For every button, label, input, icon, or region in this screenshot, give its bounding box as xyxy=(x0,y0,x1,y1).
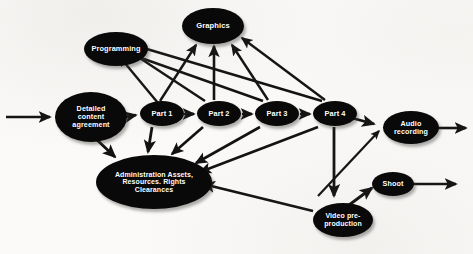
node-label: Audiorecording xyxy=(390,120,432,136)
node-label: Part 4 xyxy=(320,110,349,118)
node-label: Video pre-production xyxy=(320,212,366,227)
node-detailed-content-agreement[interactable]: Detailedcontentagreement xyxy=(55,92,127,142)
node-part-1[interactable]: Part 1 xyxy=(140,101,184,126)
node-label: Part 2 xyxy=(204,110,233,118)
node-administration-assets[interactable]: Administration Assets,Resources. RightsC… xyxy=(96,155,212,209)
node-audio-recording[interactable]: Audiorecording xyxy=(383,111,439,144)
node-label: Programming xyxy=(87,45,144,53)
edge-video-to-shoot xyxy=(349,188,372,205)
edge-part2-to-admin xyxy=(172,127,203,154)
edge-part1-to-admin xyxy=(148,127,152,152)
workflow-diagram: Detailedcontentagreement Programming Gra… xyxy=(0,0,473,254)
node-label: Detailedcontentagreement xyxy=(68,105,113,128)
edge-detailed-to-part1 xyxy=(126,115,136,117)
node-label: Part 3 xyxy=(262,110,291,118)
node-shoot[interactable]: Shoot xyxy=(372,172,414,196)
node-part-3[interactable]: Part 3 xyxy=(255,101,299,126)
edge-part4-to-programming xyxy=(130,44,322,101)
node-graphics[interactable]: Graphics xyxy=(182,8,244,44)
node-label: Part 1 xyxy=(147,110,176,118)
node-label: Graphics xyxy=(192,22,234,30)
node-video-pre-production[interactable]: Video pre-production xyxy=(313,203,373,237)
edge-video-to-admin xyxy=(203,184,313,211)
node-label: Shoot xyxy=(379,180,408,188)
node-programming[interactable]: Programming xyxy=(84,32,148,66)
edge-video-to-audio xyxy=(318,131,379,196)
node-label: Administration Assets,Resources. RightsC… xyxy=(111,171,197,194)
node-part-2[interactable]: Part 2 xyxy=(197,101,241,126)
edge-part3-to-admin xyxy=(196,127,260,163)
node-part-4[interactable]: Part 4 xyxy=(313,101,357,126)
